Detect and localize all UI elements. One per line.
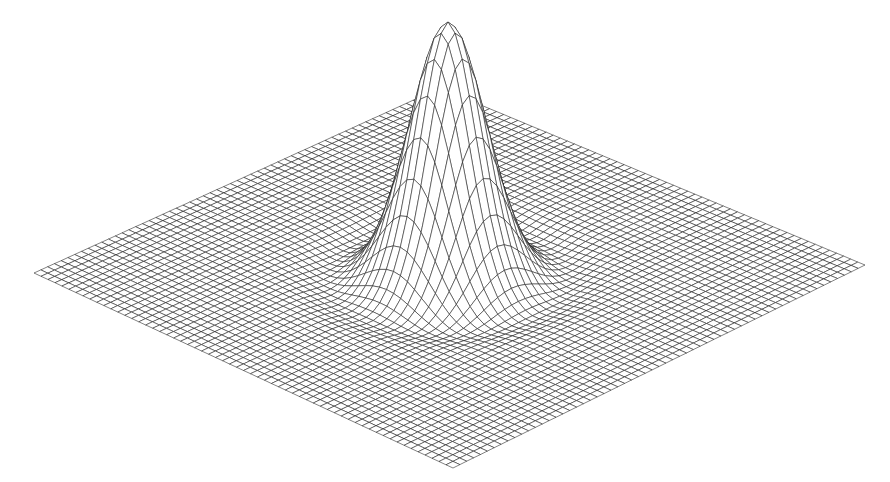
wireframe-mesh [34, 22, 865, 468]
surface-plot [0, 0, 890, 482]
